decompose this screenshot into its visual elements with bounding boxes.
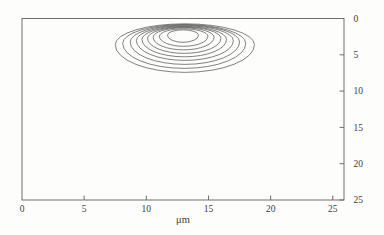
y-tick-label: 10 — [354, 86, 364, 96]
y-tick-label: 25 — [354, 195, 364, 205]
contour-line — [130, 25, 239, 64]
x-tick-label: 10 — [142, 204, 152, 214]
y-tick-label: 5 — [354, 50, 359, 60]
x-axis-label: μm — [176, 214, 190, 225]
contour-line — [115, 24, 254, 73]
x-tick-label: 20 — [266, 204, 276, 214]
y-tick-label: 0 — [354, 14, 359, 24]
contour-line — [167, 30, 198, 42]
contour-line — [159, 29, 207, 46]
contour-line — [148, 27, 221, 53]
contour-figure: 05101520250510152025μm — [0, 0, 384, 235]
x-tick-label: 15 — [204, 204, 214, 214]
plot-frame — [22, 19, 344, 201]
x-tick-label: 25 — [328, 204, 338, 214]
y-tick-label: 20 — [354, 159, 364, 169]
x-tick-label: 0 — [20, 204, 25, 214]
x-tick-label: 5 — [82, 204, 87, 214]
contour-plot-svg: 05101520250510152025μm — [0, 0, 384, 235]
y-tick-label: 15 — [354, 123, 364, 133]
